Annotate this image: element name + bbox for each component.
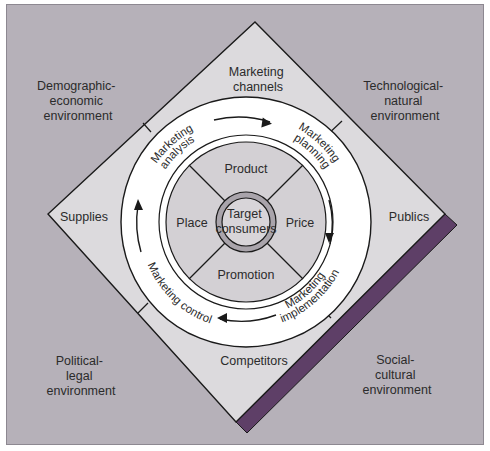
env-bottom-right: Social- cultural environment [363, 353, 432, 397]
env-top-right: Technological- natural environment [363, 79, 446, 123]
actor-marketing-channels: Marketing channels [229, 65, 287, 94]
env-top-left: Demographic- economic environment [37, 79, 119, 123]
mix-product: Product [224, 162, 268, 176]
env-bottom-left: Political- legal environment [47, 354, 116, 398]
actor-supplies: Supplies [60, 210, 108, 224]
mix-promotion: Promotion [218, 268, 275, 282]
actor-competitors: Competitors [220, 354, 287, 368]
marketing-environment-diagram: Demographic- economic environment Techno… [0, 0, 490, 451]
mix-price: Price [286, 216, 315, 230]
mix-place: Place [176, 216, 207, 230]
actor-publics: Publics [389, 210, 429, 224]
